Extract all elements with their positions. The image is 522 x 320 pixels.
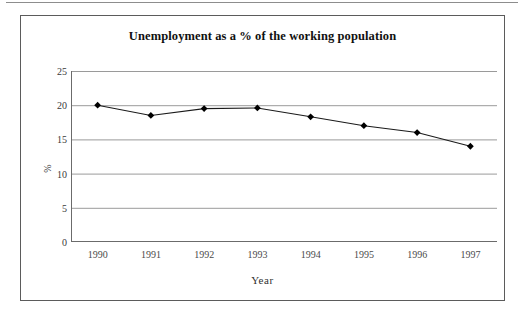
y-axis-title: % (42, 164, 53, 172)
x-tick-label-1991: 1991 (141, 249, 161, 260)
y-tick-label-10: 10 (57, 168, 67, 179)
axis-lines (71, 71, 497, 242)
x-tick-label-1995: 1995 (354, 249, 374, 260)
x-tick-label-1990: 1990 (88, 249, 108, 260)
y-tick-label-0: 0 (62, 237, 67, 248)
data-point-1990 (94, 102, 101, 109)
y-tick-label-20: 20 (57, 100, 67, 111)
x-tick-label-1994: 1994 (301, 249, 321, 260)
plot-area (71, 71, 497, 242)
data-point-1995 (360, 122, 367, 129)
x-tick-label-1992: 1992 (194, 249, 214, 260)
page-top-rule (6, 2, 518, 3)
y-tick-label-5: 5 (62, 202, 67, 213)
chart-screenshot: Unemployment as a % of the working popul… (0, 0, 522, 320)
data-point-1992 (201, 105, 208, 112)
x-axis-title: Year (21, 274, 504, 286)
x-axis-tick-labels: 19901991199219931994199519961997 (71, 249, 497, 265)
data-point-1997 (467, 143, 474, 150)
y-tick-label-15: 15 (57, 134, 67, 145)
data-point-1991 (147, 112, 154, 119)
x-tick-label-1997: 1997 (460, 249, 480, 260)
x-tick-label-1996: 1996 (407, 249, 427, 260)
gridlines (71, 72, 497, 243)
data-point-1996 (414, 129, 421, 136)
series-markers (94, 102, 474, 150)
y-axis-tick-labels: 0 5 10 15 20 25 (35, 71, 67, 242)
chart-title: Unemployment as a % of the working popul… (21, 29, 504, 44)
data-point-1994 (307, 113, 314, 120)
y-tick-label-25: 25 (57, 66, 67, 77)
chart-frame: Unemployment as a % of the working popul… (20, 15, 505, 301)
plot-svg (71, 71, 497, 242)
x-tick-label-1993: 1993 (247, 249, 267, 260)
